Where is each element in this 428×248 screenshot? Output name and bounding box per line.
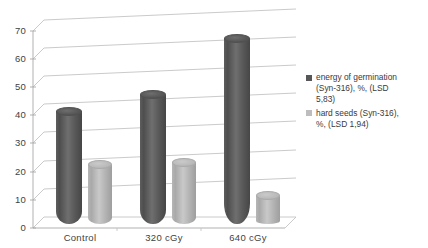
y-axis-tick-label: 40: [2, 109, 26, 120]
bar-body: [140, 95, 166, 224]
y-axis-tick-label: 50: [2, 81, 26, 92]
bar-320cgy-hard-seeds: [172, 162, 196, 224]
bar-control-hard-seeds: [88, 165, 112, 224]
bar-top-ellipse: [172, 158, 196, 167]
y-axis-tick-label: 30: [2, 137, 26, 148]
bar-top-ellipse: [56, 107, 82, 116]
chart-legend: energy of germination (Syn-316), %, (LSD…: [306, 72, 426, 132]
y-axis-tick-label: 20: [2, 166, 26, 177]
bar-320cgy-energy-of-germination: [140, 95, 166, 224]
x-axis-tick-label-320cgy: 320 cGy: [132, 232, 196, 243]
chart-container: 70 60 50 40 30 20 10 0 Control 320 cGy 6…: [0, 0, 428, 248]
bar-body: [224, 38, 250, 224]
x-axis-tick-label-control: Control: [50, 232, 110, 243]
legend-label-line: (Syn-316), %, (LSD: [316, 83, 426, 94]
bar-640cgy-hard-seeds: [256, 196, 280, 224]
bar-control-energy-of-germination: [56, 111, 82, 224]
y-axis-tick-label: 70: [2, 25, 26, 36]
bar-body: [88, 165, 112, 224]
y-axis-tick-label: 60: [2, 53, 26, 64]
legend-swatch-light-icon: [306, 110, 312, 116]
legend-label-line: energy of germination: [316, 72, 426, 83]
legend-label-line: %, (LSD 1,94): [316, 119, 426, 130]
y-axis-tick-label: 10: [2, 194, 26, 205]
bar-body: [256, 196, 280, 224]
bar-top-ellipse: [224, 34, 250, 43]
bar-640cgy-energy-of-germination: [224, 38, 250, 224]
bar-body: [172, 162, 196, 224]
legend-swatch-dark-icon: [306, 75, 312, 81]
legend-item-energy-of-germination: energy of germination (Syn-316), %, (LSD…: [306, 72, 426, 106]
y-axis-tick-label: 0: [2, 222, 26, 233]
bar-body: [56, 111, 82, 224]
legend-label-line: 5,83): [316, 94, 426, 105]
legend-item-hard-seeds: hard seeds (Syn-316), %, (LSD 1,94): [306, 108, 426, 130]
x-axis-tick-label-640cgy: 640 cGy: [216, 232, 280, 243]
legend-label-line: hard seeds (Syn-316),: [316, 108, 426, 119]
